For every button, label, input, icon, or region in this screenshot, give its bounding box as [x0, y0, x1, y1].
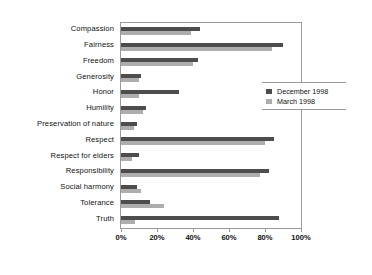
bar-march-1998: [121, 173, 260, 177]
x-tick-mark: [193, 229, 194, 232]
category-label: Truth: [96, 215, 114, 223]
bar-group: [121, 137, 301, 145]
bar-march-1998: [121, 157, 132, 161]
bars-layer: [121, 23, 301, 228]
bar-group: [121, 216, 301, 224]
category-label: Respect: [85, 136, 114, 144]
bar-group: [121, 43, 301, 51]
category-label: Honor: [93, 88, 114, 96]
x-tick-mark: [301, 229, 302, 232]
bar-group: [121, 74, 301, 82]
chart-legend: December 1998 March 1998: [262, 82, 346, 110]
bar-march-1998: [121, 78, 139, 82]
legend-item-march-1998: March 1998: [266, 96, 343, 106]
category-label: Respect for elders: [51, 152, 114, 160]
category-label: Compassion: [71, 25, 114, 33]
bar-group: [121, 27, 301, 35]
horizontal-bar-chart: CompassionFairnessFreedomGenerosityHonor…: [0, 0, 372, 275]
bar-group: [121, 122, 301, 130]
bar-march-1998: [121, 31, 191, 35]
x-axis: 0%20%40%60%80%100%: [120, 229, 302, 249]
bar-group: [121, 169, 301, 177]
bar-march-1998: [121, 220, 135, 224]
x-tick-label: 100%: [291, 233, 310, 242]
category-label: Humility: [86, 104, 114, 112]
category-label: Preservation of nature: [37, 120, 114, 128]
x-tick-label: 0%: [116, 233, 127, 242]
category-label: Responsibility: [66, 167, 114, 175]
bar-march-1998: [121, 126, 134, 130]
bar-group: [121, 153, 301, 161]
bar-march-1998: [121, 62, 193, 66]
bar-group: [121, 185, 301, 193]
bar-march-1998: [121, 94, 139, 98]
legend-swatch-icon-december-1998: [266, 89, 272, 94]
x-tick-mark: [157, 229, 158, 232]
category-label: Freedom: [83, 57, 114, 65]
category-label: Social harmony: [60, 183, 114, 191]
x-tick-label: 20%: [149, 233, 164, 242]
legend-label-december-1998: December 1998: [277, 87, 328, 96]
bar-group: [121, 200, 301, 208]
category-label: Fairness: [84, 41, 114, 49]
x-tick-label: 60%: [221, 233, 236, 242]
bar-march-1998: [121, 204, 164, 208]
bar-march-1998: [121, 189, 141, 193]
x-tick-mark: [121, 229, 122, 232]
bar-december-1998: [121, 216, 279, 220]
x-tick-label: 80%: [257, 233, 272, 242]
legend-swatch-icon-march-1998: [266, 99, 272, 104]
legend-label-march-1998: March 1998: [277, 97, 315, 106]
x-tick-label: 40%: [185, 233, 200, 242]
bar-march-1998: [121, 47, 272, 51]
bar-march-1998: [121, 110, 143, 114]
bar-march-1998: [121, 141, 265, 145]
category-label: Tolerance: [80, 199, 114, 207]
category-label: Generosity: [76, 73, 114, 81]
x-tick-mark: [229, 229, 230, 232]
x-tick-mark: [265, 229, 266, 232]
category-axis: CompassionFairnessFreedomGenerosityHonor…: [0, 22, 117, 229]
bar-group: [121, 58, 301, 66]
legend-item-december-1998: December 1998: [266, 86, 343, 96]
